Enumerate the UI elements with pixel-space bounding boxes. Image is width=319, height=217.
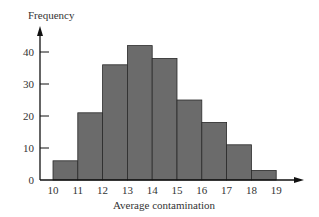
x-tick-label: 14 [147, 184, 159, 196]
x-tick-label: 13 [122, 184, 134, 196]
y-ticks: 010203040 [23, 46, 49, 186]
histogram-bar [251, 170, 276, 180]
histogram-chart: 010203040 10111213141516171819 Frequency… [0, 0, 319, 217]
x-tick-label: 10 [48, 184, 60, 196]
y-tick-label: 30 [23, 78, 35, 90]
x-tick-label: 18 [246, 184, 258, 196]
histogram-bar [53, 161, 78, 180]
x-tick-label: 11 [73, 184, 84, 196]
histogram-bar [177, 100, 202, 180]
x-axis-label: Average contamination [113, 199, 216, 211]
y-tick-label: 20 [23, 110, 35, 122]
x-tick-label: 17 [221, 184, 233, 196]
histogram-bars [53, 46, 276, 180]
histogram-bar [78, 113, 103, 180]
histogram-bar [127, 46, 152, 180]
histogram-bar [103, 65, 128, 180]
y-tick-label: 10 [23, 142, 35, 154]
x-tick-label: 15 [172, 184, 184, 196]
histogram-bar [202, 122, 227, 180]
histogram-bar [152, 58, 177, 180]
x-ticks: 10111213141516171819 [48, 184, 283, 196]
y-tick-label: 40 [23, 46, 35, 58]
x-axis-arrow-icon [294, 177, 304, 183]
histogram-bar [227, 145, 252, 180]
y-axis-arrow-icon [37, 26, 43, 36]
x-tick-label: 16 [196, 184, 208, 196]
y-tick-label: 0 [29, 174, 35, 186]
x-tick-label: 19 [271, 184, 283, 196]
x-tick-label: 12 [97, 184, 108, 196]
y-axis-label: Frequency [28, 9, 75, 21]
